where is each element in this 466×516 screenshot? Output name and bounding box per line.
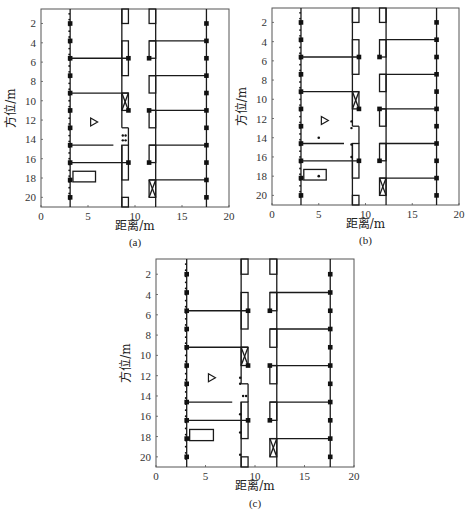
left-wall-dot xyxy=(185,379,187,381)
left-wall-marker xyxy=(184,272,189,277)
left-wall-dot xyxy=(185,281,187,283)
left-wall-marker xyxy=(299,124,304,129)
door-box xyxy=(380,143,387,160)
left-wall-dot xyxy=(68,135,70,137)
left-wall-marker xyxy=(68,195,73,200)
sensor-triangle-icon xyxy=(208,374,215,382)
door-box xyxy=(122,9,129,23)
y-tick-label: 16 xyxy=(25,153,37,165)
left-wall-dot xyxy=(68,48,70,50)
corridor-right-marker xyxy=(268,308,273,313)
left-wall-dot xyxy=(68,100,70,102)
y-tick-label: 10 xyxy=(256,93,268,105)
left-wall-marker xyxy=(299,107,304,112)
left-wall-dot xyxy=(299,133,301,135)
x-tick-label: 0 xyxy=(153,470,159,482)
left-wall-dot xyxy=(299,116,301,118)
x-tick-label: 15 xyxy=(407,208,419,220)
right-wall-marker xyxy=(204,126,209,131)
x-tick-label: 0 xyxy=(269,208,275,220)
panel-caption: (a) xyxy=(129,236,142,249)
left-wall-dot xyxy=(299,87,301,89)
left-wall-dot xyxy=(68,123,70,125)
left-wall-dot xyxy=(68,36,70,38)
x-tick-label: 5 xyxy=(203,470,209,482)
y-tick-label: 16 xyxy=(256,151,268,163)
door-dot xyxy=(239,377,241,379)
left-wall-dot xyxy=(185,428,187,430)
y-tick-label: 2 xyxy=(31,17,37,29)
left-wall-dot xyxy=(68,187,70,189)
y-axis-label: 方位/m xyxy=(234,86,249,126)
door-box xyxy=(149,41,156,58)
door-dot xyxy=(124,134,126,136)
corridor-left-marker xyxy=(246,308,251,313)
door-dot xyxy=(239,413,241,415)
left-wall-dot xyxy=(68,19,70,21)
y-axis-label: 方位/m xyxy=(3,88,18,128)
door-box xyxy=(149,9,156,23)
left-wall-dot xyxy=(299,70,301,72)
corridor-right-marker xyxy=(147,160,152,165)
right-wall-marker xyxy=(204,108,209,113)
left-wall-dot xyxy=(299,29,301,31)
door-dot xyxy=(239,383,241,385)
left-wall-dot xyxy=(299,98,301,100)
corridor-left-marker xyxy=(246,418,251,423)
panel-b: 051015202468101214161820距离/m方位/m(b) xyxy=(234,8,465,247)
door-box xyxy=(149,76,156,93)
object-rectangle xyxy=(73,171,96,182)
left-wall-dot xyxy=(68,117,70,119)
left-wall-marker xyxy=(68,108,73,113)
left-wall-dot xyxy=(68,53,70,55)
left-wall-dot xyxy=(68,158,70,160)
door-box xyxy=(380,74,387,91)
right-wall-marker xyxy=(328,345,333,350)
right-wall-marker xyxy=(328,436,333,441)
corridor-right-marker xyxy=(268,418,273,423)
y-tick-label: 18 xyxy=(140,431,152,443)
door-box xyxy=(149,145,156,162)
left-wall-dot xyxy=(68,193,70,195)
y-tick-label: 6 xyxy=(146,309,152,321)
corridor-left-marker xyxy=(357,55,362,60)
detected-point xyxy=(317,175,320,178)
left-wall-dot xyxy=(299,12,301,14)
left-wall-dot xyxy=(185,324,187,326)
y-tick-label: 12 xyxy=(140,370,151,382)
panel-caption: (c) xyxy=(249,497,262,510)
x-tick-label: 20 xyxy=(224,210,236,222)
left-wall-dot xyxy=(68,88,70,90)
left-wall-marker xyxy=(68,126,73,131)
left-wall-dot xyxy=(299,139,301,141)
y-tick-label: 12 xyxy=(256,113,267,125)
left-wall-dot xyxy=(185,415,187,417)
corridor-left-marker xyxy=(357,158,362,163)
left-wall-dot xyxy=(185,373,187,375)
left-wall-dot xyxy=(299,121,301,123)
door-dot xyxy=(122,139,124,141)
left-wall-dot xyxy=(299,168,301,170)
right-wall-marker xyxy=(204,91,209,96)
right-wall-marker xyxy=(204,160,209,165)
door-box xyxy=(380,109,387,126)
detected-point xyxy=(317,136,320,139)
left-wall-marker xyxy=(68,39,73,44)
y-tick-label: 8 xyxy=(146,329,152,341)
left-wall-dot xyxy=(68,30,70,32)
y-tick-label: 18 xyxy=(25,172,37,184)
door-box xyxy=(270,259,277,274)
corridor-left-marker xyxy=(126,160,131,165)
y-tick-label: 2 xyxy=(146,268,152,280)
corridor-left-marker xyxy=(126,108,131,113)
right-wall-marker xyxy=(204,178,209,183)
left-wall-dot xyxy=(185,306,187,308)
left-wall-dot xyxy=(299,173,301,175)
door-box xyxy=(122,197,129,207)
y-axis-label: 方位/m xyxy=(118,343,133,383)
left-wall-dot xyxy=(299,150,301,152)
y-tick-label: 12 xyxy=(25,114,36,126)
right-wall-marker xyxy=(204,21,209,26)
left-wall-marker xyxy=(184,455,189,460)
y-tick-label: 14 xyxy=(140,390,152,402)
